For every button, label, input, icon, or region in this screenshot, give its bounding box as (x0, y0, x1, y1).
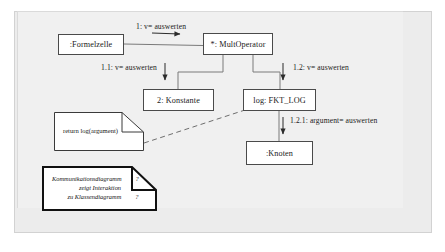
legend-line-2-text: zeigt Interaktion (79, 184, 121, 191)
object-multoperator[interactable]: *: MultOperator (203, 33, 273, 55)
object-knoten[interactable]: :Knoten (246, 141, 313, 165)
message-label-1-1: 1.1: v= auswerten (101, 63, 157, 72)
object-label: 2: Konstante (157, 96, 200, 105)
message-label-1-2: 1.2: v= auswerten (293, 63, 349, 72)
legend-line-1-text: Kommunikationsdiagramm (52, 175, 122, 182)
object-fkt-log[interactable]: log: FKT_LOG (243, 89, 316, 111)
object-formelzelle[interactable]: :Formelzelle (58, 34, 124, 55)
note-legend[interactable]: Kommunikationsdiagramm? zeigt Interaktio… (42, 166, 157, 211)
note-return-text: return log(argument) (63, 127, 118, 134)
note-legend-text: Kommunikationsdiagramm? zeigt Interaktio… (50, 174, 150, 201)
note-return[interactable]: return log(argument) (54, 112, 144, 151)
object-konstante[interactable]: 2: Konstante (143, 89, 214, 111)
legend-line-1-mark: ? (122, 175, 139, 182)
note-legend-line-1: Kommunikationsdiagramm? (50, 174, 150, 183)
object-label: :Formelzelle (70, 40, 113, 49)
object-label: *: MultOperator (211, 40, 266, 49)
diagram-canvas: :Formelzelle *: MultOperator 2: Konstant… (0, 0, 445, 252)
legend-line-3-text: zu Klassendiagramm (68, 193, 122, 200)
message-label-1: 1: v= auswerten (136, 22, 186, 31)
object-label: :Knoten (266, 149, 293, 158)
message-label-1-2-1: 1.2.1: argument= auswerten (290, 116, 377, 125)
note-legend-line-2: zeigt Interaktion (50, 183, 150, 192)
legend-line-3-mark: ? (121, 193, 138, 200)
object-label: log: FKT_LOG (253, 96, 305, 105)
note-legend-line-3: zu Klassendiagramm? (50, 192, 150, 201)
